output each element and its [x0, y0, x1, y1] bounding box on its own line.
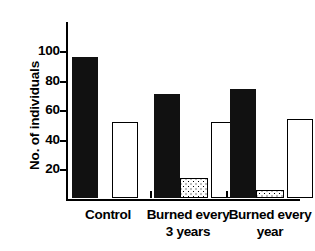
bar-chart-figure: No. of individuals 20 40 60 80 100	[0, 0, 315, 251]
baseline-stub-2	[222, 192, 224, 198]
bar-control-open	[112, 122, 138, 198]
y-tick-100: 100	[60, 51, 67, 53]
bar-burnedyear-solid	[230, 89, 256, 198]
x-label-control-line1: Control	[85, 207, 131, 222]
x-label-burned3-line2: 3 years	[166, 224, 210, 239]
plot-area: 20 40 60 80 100	[66, 22, 300, 200]
baseline-stub-1	[150, 191, 152, 198]
y-tick-60: 60	[60, 110, 67, 112]
bar-control-solid	[72, 57, 98, 198]
baseline-stub-3	[226, 191, 228, 198]
x-label-burned-every-year: Burned every year	[218, 206, 315, 241]
bar-burnedyear-stippled	[256, 190, 284, 198]
y-tick-label-20: 20	[14, 162, 60, 176]
y-tick-20: 20	[60, 169, 67, 171]
bar-burned3-stippled	[180, 178, 208, 198]
y-tick-label-80: 80	[14, 74, 60, 88]
x-axis-line	[66, 199, 300, 201]
x-label-burned3-line1: Burned every	[147, 207, 230, 222]
y-tick-80: 80	[60, 81, 67, 83]
bar-burned3-solid	[154, 94, 180, 198]
x-axis-labels: Control Burned every 3 years Burned ever…	[60, 206, 310, 251]
y-tick-label-40: 40	[14, 133, 60, 147]
bar-burnedyear-open	[287, 119, 313, 198]
x-label-burnedyear-line1: Burned every	[229, 207, 312, 222]
y-tick-label-60: 60	[14, 103, 60, 117]
x-label-burnedyear-line2: year	[257, 224, 284, 239]
y-tick-40: 40	[60, 140, 67, 142]
y-tick-label-100: 100	[14, 44, 60, 58]
